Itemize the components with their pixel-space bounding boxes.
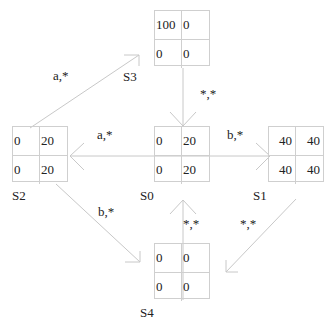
cell: 100	[155, 11, 182, 40]
cell: 0	[155, 40, 182, 68]
state-s1-label: S1	[253, 188, 267, 204]
state-s0-table: 0 20 0 20	[154, 126, 210, 182]
cell: 0	[182, 273, 209, 301]
state-s3-label: S3	[123, 69, 137, 85]
cell: 20	[40, 156, 67, 184]
edge-label-s4-s0: *,*	[183, 216, 199, 232]
cell: 0	[182, 11, 209, 40]
state-s2-label: S2	[12, 188, 26, 204]
state-s3-table: 100 0 0 0	[154, 10, 210, 66]
edge-label-s0-s2: a,*	[97, 127, 113, 143]
cell: 0	[182, 244, 209, 273]
cell: 0	[182, 40, 209, 68]
edge-label-s2-s4: b,*	[98, 204, 114, 220]
cell: 0	[155, 156, 182, 184]
cell: 20	[40, 127, 67, 156]
edge-label-s2-s3: a,*	[53, 68, 69, 84]
cell: 40	[296, 156, 323, 184]
edge-label-s3-s0: *,*	[200, 86, 216, 102]
state-s2-table: 0 20 0 20	[12, 126, 68, 182]
cell: 40	[269, 127, 296, 156]
cell: 20	[182, 127, 209, 156]
edge-s2-s3	[30, 55, 139, 128]
edge-s1-s4	[226, 199, 296, 272]
cell: 0	[155, 127, 182, 156]
state-s0-label: S0	[140, 188, 154, 204]
edge-label-s1-s4: *,*	[240, 216, 256, 232]
state-s1-table: 40 40 40 40	[268, 126, 324, 182]
state-s4-label: S4	[140, 305, 154, 321]
edge-label-s0-s1: b,*	[227, 127, 243, 143]
cell: 0	[155, 273, 182, 301]
cell: 40	[296, 127, 323, 156]
cell: 0	[155, 244, 182, 273]
state-s4-table: 0 0 0 0	[154, 243, 210, 299]
edge-s2-s4	[56, 184, 140, 262]
cell: 0	[13, 127, 40, 156]
cell: 20	[182, 156, 209, 184]
cell: 0	[13, 156, 40, 184]
cell: 40	[269, 156, 296, 184]
